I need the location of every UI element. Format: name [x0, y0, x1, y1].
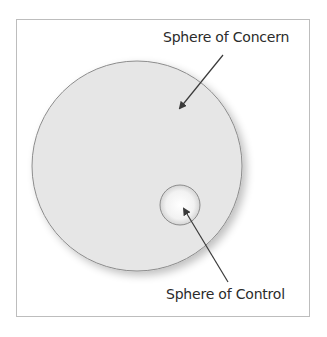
sphere-of-control-circle — [160, 185, 200, 225]
sphere-of-concern-label: Sphere of Concern — [163, 29, 289, 45]
sphere-of-concern-circle — [32, 61, 242, 271]
sphere-of-control-label: Sphere of Control — [166, 286, 285, 302]
